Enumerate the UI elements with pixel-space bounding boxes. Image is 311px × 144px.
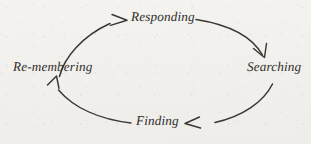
arrowhead-to-finding — [185, 117, 201, 128]
cycle-node-finding: Finding — [136, 114, 179, 127]
arc-searching-to-finding — [215, 84, 273, 123]
edge-responding-to-searching — [196, 20, 267, 58]
cycle-diagram: Responding Searching Finding Re-memberin… — [0, 0, 311, 144]
cycle-node-responding: Responding — [131, 10, 195, 23]
cycle-node-remembering: Re-membering — [13, 60, 92, 73]
arrowhead-to-responding — [111, 15, 128, 26]
arc-responding-to-searching — [196, 20, 263, 56]
arc-finding-to-remembering — [59, 90, 132, 123]
edge-searching-to-finding — [185, 84, 273, 128]
cycle-node-searching: Searching — [247, 60, 301, 73]
arrowhead-to-remembering — [48, 76, 60, 89]
edge-finding-to-remembering — [48, 76, 132, 123]
